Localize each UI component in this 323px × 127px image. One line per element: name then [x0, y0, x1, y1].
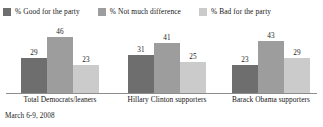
bar-value-label: 41: [163, 34, 170, 42]
bar-barack-obama-supporters-not-much-difference: 43: [258, 22, 284, 93]
bar-value-label: 31: [137, 46, 144, 54]
bar-rect: [47, 37, 73, 93]
legend-entry-bad: % Bad for the party: [199, 7, 271, 16]
legend-entry-good: % Good for the party: [3, 7, 80, 16]
category-axis-labels: Total Democrats/leaners Hillary Clinton …: [0, 95, 323, 107]
category-label-total-democrats-leaners: Total Democrats/leaners: [8, 95, 112, 105]
bar-value-label: 23: [241, 56, 248, 64]
bar-hillary-clinton-supporters-bad: 25: [180, 22, 206, 93]
bar-barack-obama-supporters-good: 23: [232, 22, 258, 93]
legend-label-not-much-difference: % Not much difference: [110, 7, 181, 16]
bar-value-label: 25: [189, 53, 196, 61]
bar-value-label: 29: [30, 49, 37, 57]
category-label-barack-obama-supporters: Barack Obama supporters: [219, 95, 323, 105]
bar-total-democrats-leaners-good: 29: [21, 22, 47, 93]
bar-rect: [258, 41, 284, 93]
plot-area: 29 46 23 31 41 25: [0, 22, 323, 94]
bar-chart-figure: % Good for the party % Not much differen…: [0, 0, 323, 127]
legend-swatch-bad-icon: [199, 8, 207, 16]
axis-baseline: [6, 93, 317, 94]
legend-entry-not-much-difference: % Not much difference: [98, 7, 181, 16]
bar-rect: [73, 65, 99, 93]
bar-value-label: 29: [293, 49, 300, 57]
bar-rect: [128, 55, 154, 93]
bar-rect: [232, 65, 258, 93]
legend-swatch-not-much-difference-icon: [98, 8, 106, 16]
bar-total-democrats-leaners-not-much-difference: 46: [47, 22, 73, 93]
bar-value-label: 46: [56, 28, 63, 36]
bar-total-democrats-leaners-bad: 23: [73, 22, 99, 93]
chart-legend: % Good for the party % Not much differen…: [3, 5, 320, 18]
bar-group-total-democrats-leaners: 29 46 23: [8, 22, 112, 93]
legend-label-good: % Good for the party: [15, 7, 80, 16]
bar-value-label: 23: [82, 56, 89, 64]
bar-hillary-clinton-supporters-not-much-difference: 41: [154, 22, 180, 93]
bar-value-label: 43: [267, 32, 274, 40]
legend-swatch-good-icon: [3, 8, 11, 16]
legend-label-bad: % Bad for the party: [211, 7, 271, 16]
chart-footnote: March 6-9, 2008: [5, 112, 55, 121]
category-label-hillary-clinton-supporters: Hillary Clinton supporters: [115, 95, 219, 105]
bar-group-barack-obama-supporters: 23 43 29: [219, 22, 323, 93]
bar-rect: [284, 58, 310, 93]
bar-rect: [180, 62, 206, 93]
bar-rect: [154, 43, 180, 93]
bar-hillary-clinton-supporters-good: 31: [128, 22, 154, 93]
bar-group-hillary-clinton-supporters: 31 41 25: [115, 22, 219, 93]
bar-barack-obama-supporters-bad: 29: [284, 22, 310, 93]
bar-rect: [21, 58, 47, 93]
